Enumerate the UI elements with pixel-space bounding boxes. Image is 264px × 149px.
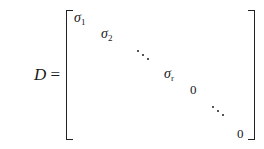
diagonal-entry-zero-1: 0 bbox=[190, 83, 197, 96]
diagonal-ellipsis-2 bbox=[212, 106, 226, 118]
matrix-variable: D bbox=[34, 65, 46, 84]
diagonal-entry-zero-2: 0 bbox=[237, 127, 244, 140]
right-bracket bbox=[248, 10, 255, 140]
diagonal-entry-sigma-2: σ2 bbox=[101, 27, 112, 43]
equation-lhs: D = bbox=[34, 66, 60, 83]
left-bracket bbox=[66, 10, 73, 140]
equals-sign: = bbox=[51, 65, 61, 84]
diagonal-entry-sigma-1: σ1 bbox=[74, 11, 85, 27]
diagonal-entry-sigma-r: σr bbox=[164, 67, 174, 83]
diagonal-ellipsis-1 bbox=[137, 50, 151, 62]
